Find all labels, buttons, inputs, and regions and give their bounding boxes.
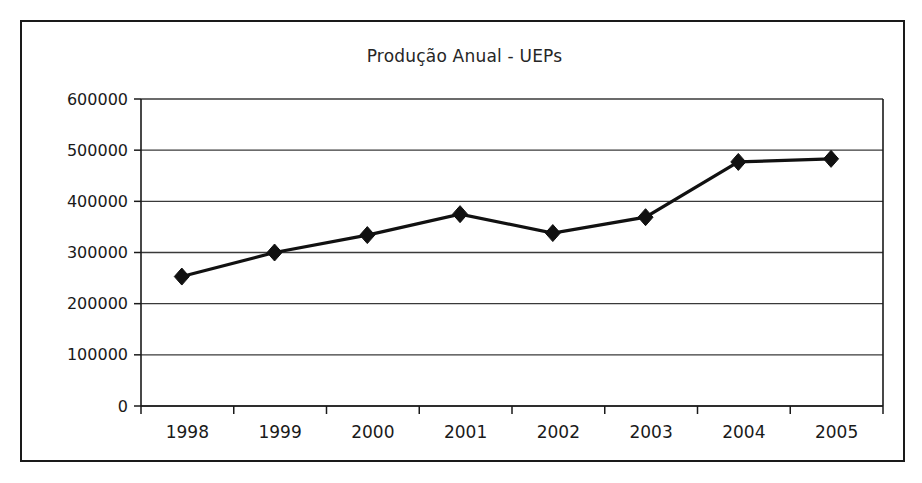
x-tick-label: 2005 bbox=[815, 422, 858, 442]
series-polyline bbox=[182, 159, 831, 277]
x-tick-label: 2000 bbox=[351, 422, 394, 442]
data-point-marker bbox=[824, 150, 839, 167]
y-axis-labels: 0100000200000300000400000500000600000 bbox=[67, 90, 128, 416]
y-tick-label: 300000 bbox=[67, 243, 128, 262]
x-axis-tick-marks bbox=[141, 406, 883, 414]
chart-outer-border: Produção Anual - UEPs 010000020000030000… bbox=[20, 20, 905, 462]
y-tick-label: 100000 bbox=[67, 345, 128, 364]
data-point-marker bbox=[638, 209, 653, 226]
y-tick-label: 400000 bbox=[67, 192, 128, 211]
data-point-markers bbox=[174, 150, 838, 285]
x-tick-label: 2003 bbox=[629, 422, 672, 442]
x-axis-labels: 19981999200020012002200320042005 bbox=[166, 422, 859, 442]
data-point-marker bbox=[453, 206, 468, 223]
x-tick-label: 2004 bbox=[722, 422, 765, 442]
data-point-marker bbox=[360, 227, 375, 244]
data-series-line bbox=[182, 159, 831, 277]
chart-figure: Produção Anual - UEPs 010000020000030000… bbox=[0, 0, 922, 483]
x-tick-label: 1998 bbox=[166, 422, 209, 442]
y-tick-label: 0 bbox=[118, 397, 128, 416]
data-point-marker bbox=[174, 268, 189, 285]
data-point-marker bbox=[267, 244, 282, 261]
y-tick-label: 600000 bbox=[67, 90, 128, 109]
x-tick-label: 1999 bbox=[258, 422, 301, 442]
gridlines-group bbox=[141, 99, 883, 406]
y-tick-label: 200000 bbox=[67, 294, 128, 313]
line-chart-plot: 0100000200000300000400000500000600000 19… bbox=[22, 22, 907, 464]
y-tick-label: 500000 bbox=[67, 141, 128, 160]
y-axis-tick-marks bbox=[134, 99, 141, 406]
x-tick-label: 2001 bbox=[444, 422, 487, 442]
data-point-marker bbox=[545, 225, 560, 242]
x-tick-label: 2002 bbox=[537, 422, 580, 442]
data-point-marker bbox=[731, 153, 746, 170]
